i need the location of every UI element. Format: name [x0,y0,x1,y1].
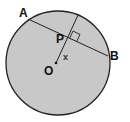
label-x: x [63,52,68,62]
center-point [55,62,58,65]
label-o: O [44,64,53,78]
circle [6,11,110,115]
label-a: A [19,6,28,20]
label-p: P [56,32,64,46]
label-b: B [110,49,119,63]
circle-chord-diagram: A B P O x [0,0,130,122]
